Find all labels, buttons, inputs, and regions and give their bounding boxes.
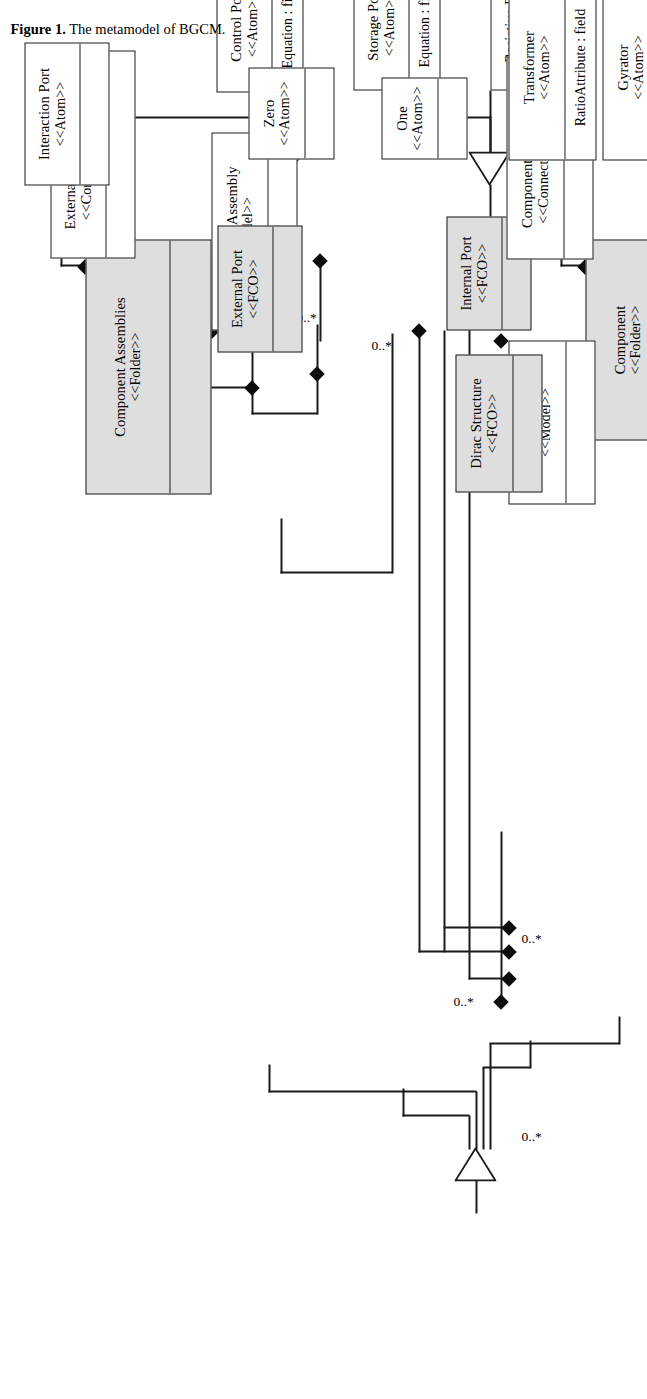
link-component-to-ds xyxy=(500,831,502,1001)
attribute-row: Equation : field xyxy=(416,0,432,85)
class-name: Internal Port xyxy=(458,221,474,325)
class-name: Transformer xyxy=(521,0,537,155)
attribute-row: RatioAttribute : field xyxy=(572,0,588,155)
class-attributes xyxy=(305,68,333,158)
class-name: Gyrator xyxy=(615,0,631,155)
class-box-one[interactable]: One <<Atom>> xyxy=(381,77,467,159)
mult-external-port-out: 0..* xyxy=(371,338,391,352)
class-stereotype: <<FCO>> xyxy=(474,221,489,325)
class-header: Component Assemblies <<Folder>> xyxy=(86,240,170,493)
class-attributes: RatioAttribute : field xyxy=(565,0,595,159)
class-name: Dirac Structure xyxy=(468,359,484,487)
class-stereotype: <<Atom>> xyxy=(630,0,645,155)
class-name: Zero xyxy=(261,72,277,154)
class-name: Control Port xyxy=(228,0,244,87)
uml-class-diagram-canvas: 0..* 0..* 0..* 0..* 0..* 0..* 0..* 0..* … xyxy=(0,0,647,1399)
class-header: External Port <<FCO>> xyxy=(218,226,273,351)
class-header: Zero <<Atom>> xyxy=(249,68,305,158)
link-assembly-internalport-h2 xyxy=(391,333,393,573)
link-tri-ds-b4-h xyxy=(618,1016,620,1044)
class-box-gyrator[interactable]: Gyrator <<Atom>> RatioAttribute : field xyxy=(602,0,647,160)
class-stereotype: <<Atom>> xyxy=(381,0,396,85)
class-header: Internal Port <<FCO>> xyxy=(447,217,502,329)
link-assembly-component-v2 xyxy=(443,926,508,928)
link-assembly-ep-hook1-v xyxy=(251,412,317,414)
class-box-zero[interactable]: Zero <<Atom>> xyxy=(248,67,334,159)
class-name: One xyxy=(394,82,410,154)
class-attributes xyxy=(80,43,108,184)
diamond-component-top-3 xyxy=(501,971,517,987)
class-stereotype: <<Folder>> xyxy=(627,244,642,435)
class-name: Storage Port xyxy=(365,0,381,85)
link-assembly-internalport-v xyxy=(280,571,392,573)
class-stereotype: <<FCO>> xyxy=(484,359,499,487)
link-tri-ip-branch-sto-a xyxy=(489,116,491,152)
diamond-component-to-ds xyxy=(493,994,509,1010)
class-stereotype: <<Atom>> xyxy=(276,72,291,154)
class-stereotype: <<Folder>> xyxy=(127,244,142,489)
diamond-assembly-ep-2 xyxy=(244,380,260,396)
link-tri-ds-b2 xyxy=(475,1091,477,1149)
diamond-assembly-bottom xyxy=(411,323,427,339)
class-box-dirac-structure[interactable]: Dirac Structure <<FCO>> xyxy=(455,354,542,492)
class-box-interaction-port[interactable]: Interaction Port <<Atom>> xyxy=(24,42,109,185)
generalization-triangle-dirac-structure xyxy=(454,1147,496,1181)
diamond-componentfolder-to-component xyxy=(493,333,509,349)
class-attributes xyxy=(513,355,541,491)
link-tri-ds-b3 xyxy=(482,1067,484,1149)
class-header: Gyrator <<Atom>> xyxy=(603,0,647,159)
class-header: One <<Atom>> xyxy=(382,78,438,158)
mult-component-cc: 0..* xyxy=(521,1129,541,1143)
class-name: Component Assemblies xyxy=(112,244,128,489)
link-ds-to-triangle xyxy=(475,1179,477,1213)
mult-component-ds: 0..* xyxy=(453,994,473,1008)
class-box-component-assemblies[interactable]: Component Assemblies <<Folder>> xyxy=(85,239,211,494)
class-attributes: Equation : field xyxy=(409,0,439,89)
generalization-triangle-internal-port xyxy=(468,151,510,185)
class-header: Interaction Port <<Atom>> xyxy=(25,43,80,184)
class-name: Component xyxy=(612,244,628,435)
diamond-component-top-1 xyxy=(501,944,517,960)
link-tri-ds-b1 xyxy=(468,1115,470,1149)
class-attributes xyxy=(170,240,210,493)
link-assembly-component-h2 xyxy=(443,330,445,952)
diamond-assembly-ep-1 xyxy=(309,366,325,382)
class-box-storage-port[interactable]: Storage Port <<Atom>> Equation : field xyxy=(353,0,440,90)
class-stereotype: <<Atom>> xyxy=(536,0,551,155)
link-assembly-component-v xyxy=(418,950,508,952)
link-tri-ds-b4-v xyxy=(489,1042,619,1044)
mult-assembly-component: 0..* xyxy=(521,931,541,945)
class-name: Interaction Port xyxy=(36,47,52,180)
class-stereotype: <<Atom>> xyxy=(52,47,67,180)
link-tri-ds-b4 xyxy=(489,1043,491,1149)
class-box-external-port[interactable]: External Port <<FCO>> xyxy=(217,225,302,352)
class-header: Dirac Structure <<FCO>> xyxy=(456,355,513,491)
link-ip-to-triangle xyxy=(489,184,491,216)
class-stereotype: <<Atom>> xyxy=(409,82,424,154)
class-box-transformer[interactable]: Transformer <<Atom>> RatioAttribute : fi… xyxy=(508,0,596,160)
link-assembly-component-h xyxy=(418,330,420,952)
rotated-page-wrapper: 0..* 0..* 0..* 0..* 0..* 0..* 0..* 0..* … xyxy=(0,0,647,1399)
figure-caption-label: Figure 1. xyxy=(10,20,65,36)
class-attributes xyxy=(438,78,466,158)
class-attributes xyxy=(566,341,594,503)
link-assembly-internalport-h xyxy=(280,518,282,573)
link-tri-ds-b2-h xyxy=(268,1064,270,1092)
link-assemblies-to-assembly xyxy=(319,261,321,341)
class-attributes xyxy=(273,226,301,351)
class-header: Storage Port <<Atom>> xyxy=(354,0,409,89)
diamond-assemblies-to-assembly xyxy=(312,253,328,269)
class-attributes xyxy=(106,51,134,257)
figure-caption: Figure 1. The metamodel of BGCM. xyxy=(10,21,225,36)
class-stereotype: <<FCO>> xyxy=(245,230,260,347)
class-header: Transformer <<Atom>> xyxy=(509,0,565,159)
class-name: External Port xyxy=(229,230,245,347)
link-tri-ds-b1-v xyxy=(402,1114,469,1116)
diamond-component-top-2 xyxy=(501,920,517,936)
link-tri-ds-b2-v xyxy=(268,1090,476,1092)
figure-caption-text: The metamodel of BGCM. xyxy=(69,20,225,36)
